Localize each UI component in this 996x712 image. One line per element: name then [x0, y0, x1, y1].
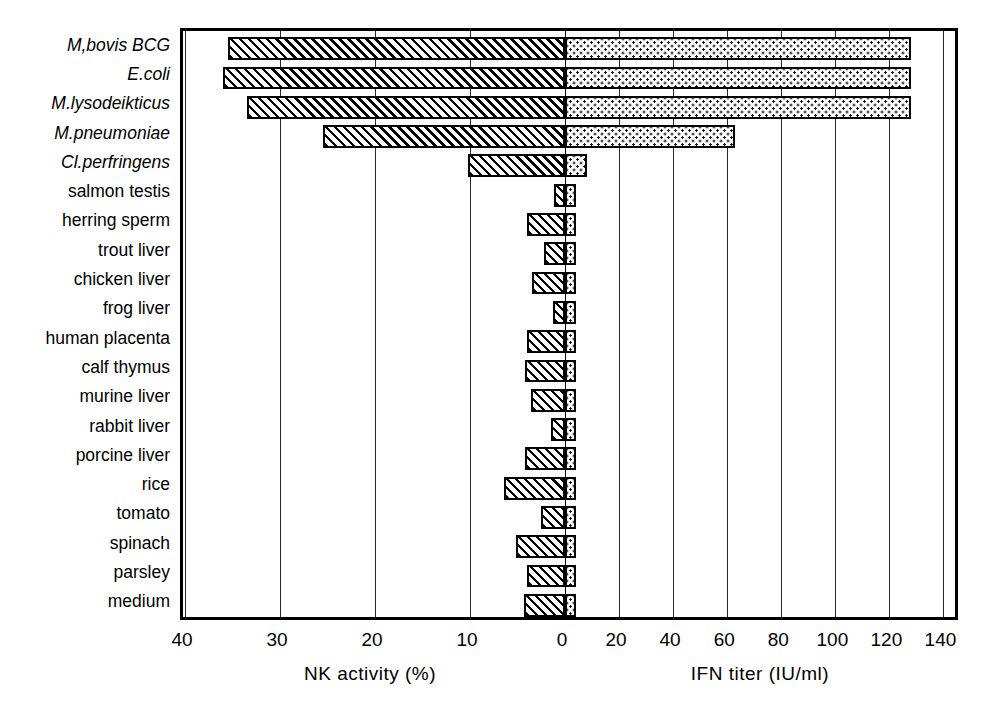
bar-nk-activity — [323, 125, 565, 148]
bar-ifn-titer — [565, 96, 911, 119]
tick-label-nk-30: 30 — [266, 630, 287, 649]
bar-ifn-titer — [565, 447, 576, 470]
bar-row — [183, 301, 955, 324]
bar-nk-activity — [554, 184, 565, 207]
category-label: M.lysodeikticus — [0, 95, 170, 113]
category-label: calf thymus — [0, 359, 170, 377]
gridline-left-30 — [280, 31, 281, 617]
bar-ifn-titer — [565, 389, 576, 412]
bar-ifn-titer — [565, 125, 735, 148]
bar-row — [183, 477, 955, 500]
gridline-left-40 — [185, 31, 186, 617]
tick-label-ifn-120: 120 — [871, 630, 903, 649]
bar-ifn-titer — [565, 154, 587, 177]
bar-nk-activity — [223, 67, 565, 90]
bar-row — [183, 37, 955, 60]
category-label: M.pneumoniae — [0, 125, 170, 143]
plot-inner — [183, 31, 955, 617]
bar-row — [183, 594, 955, 617]
bar-nk-activity — [527, 330, 565, 353]
bar-ifn-titer — [565, 418, 576, 441]
bar-ifn-titer — [565, 301, 576, 324]
axis-title-nk-activity: NK activity (%) — [304, 664, 436, 683]
gridline-right-140 — [943, 31, 944, 617]
category-label: herring sperm — [0, 212, 170, 230]
chart-root: M,bovis BCGE.coliM.lysodeikticusM.pneumo… — [0, 0, 996, 712]
tick-label-nk-40: 40 — [171, 630, 192, 649]
category-label: chicken liver — [0, 271, 170, 289]
bar-ifn-titer — [565, 37, 911, 60]
gridline-left-20 — [375, 31, 376, 617]
bar-ifn-titer — [565, 184, 576, 207]
bar-nk-activity — [468, 154, 565, 177]
bar-row — [183, 184, 955, 207]
bar-row — [183, 242, 955, 265]
gridline-right-40 — [673, 31, 674, 617]
bar-nk-activity — [525, 447, 565, 470]
gridline-right-80 — [781, 31, 782, 617]
bar-nk-activity — [516, 535, 565, 558]
bar-nk-activity — [551, 418, 565, 441]
category-label: trout liver — [0, 242, 170, 260]
bar-nk-activity — [531, 389, 565, 412]
bar-nk-activity — [544, 242, 565, 265]
tick-label-ifn-20: 20 — [605, 630, 626, 649]
bar-ifn-titer — [565, 272, 576, 295]
category-label: tomato — [0, 505, 170, 523]
tick-label-ifn-40: 40 — [660, 630, 681, 649]
bar-row — [183, 565, 955, 588]
bar-row — [183, 535, 955, 558]
tick-label-nk-10: 10 — [456, 630, 477, 649]
category-label: porcine liver — [0, 447, 170, 465]
category-label: parsley — [0, 564, 170, 582]
bar-row — [183, 389, 955, 412]
bar-nk-activity — [527, 213, 565, 236]
category-label: medium — [0, 593, 170, 611]
bar-row — [183, 360, 955, 383]
category-label: E.coli — [0, 66, 170, 84]
category-label: frog liver — [0, 300, 170, 318]
bar-row — [183, 67, 955, 90]
category-label: salmon testis — [0, 183, 170, 201]
bar-nk-activity — [525, 360, 565, 383]
bar-nk-activity — [532, 272, 565, 295]
tick-label-ifn-100: 100 — [816, 630, 848, 649]
tick-label-nk-20: 20 — [361, 630, 382, 649]
bar-row — [183, 272, 955, 295]
tick-label-ifn-80: 80 — [768, 630, 789, 649]
gridline-right-100 — [835, 31, 836, 617]
bar-nk-activity — [228, 37, 565, 60]
bar-nk-activity — [541, 506, 565, 529]
bar-row — [183, 125, 955, 148]
axis-title-ifn-titer: IFN titer (IU/ml) — [691, 664, 829, 683]
bar-row — [183, 506, 955, 529]
tick-label-ifn-140: 140 — [925, 630, 957, 649]
category-label: murine liver — [0, 388, 170, 406]
category-label: M,bovis BCG — [0, 37, 170, 55]
bar-ifn-titer — [565, 535, 576, 558]
bar-ifn-titer — [565, 242, 576, 265]
bar-ifn-titer — [565, 213, 576, 236]
category-axis-labels: M,bovis BCGE.coliM.lysodeikticusM.pneumo… — [0, 28, 176, 620]
bar-ifn-titer — [565, 594, 576, 617]
bar-row — [183, 418, 955, 441]
bar-row — [183, 447, 955, 470]
bar-ifn-titer — [565, 565, 576, 588]
bar-row — [183, 213, 955, 236]
bar-ifn-titer — [565, 360, 576, 383]
category-label: spinach — [0, 535, 170, 553]
bar-row — [183, 96, 955, 119]
tick-label-ifn-60: 60 — [714, 630, 735, 649]
gridline-right-60 — [727, 31, 728, 617]
bar-nk-activity — [553, 301, 565, 324]
gridline-left-10 — [470, 31, 471, 617]
category-label: human placenta — [0, 330, 170, 348]
bar-ifn-titer — [565, 477, 576, 500]
bar-nk-activity — [524, 594, 565, 617]
bar-ifn-titer — [565, 330, 576, 353]
bar-nk-activity — [504, 477, 565, 500]
category-label: Cl.perfringens — [0, 154, 170, 172]
bar-row — [183, 330, 955, 353]
gridline-right-120 — [889, 31, 890, 617]
zero-axis-line — [565, 31, 566, 617]
